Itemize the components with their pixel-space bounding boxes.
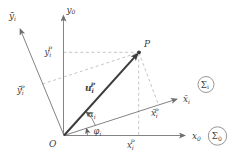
y-i-P-coordinate-label: yiP (44, 45, 53, 57)
ybar-i-axis (20, 30, 64, 136)
y0-axis-label: y0 (66, 5, 76, 16)
xbar-i-P-coordinate-label: x̄iP (151, 107, 159, 119)
xbar-i-axis-label: x̄i (183, 94, 190, 105)
x0-axis-label: x0 (192, 131, 201, 142)
alpha-i-angle-label: αi (88, 109, 96, 120)
point-P-label: P (143, 39, 151, 49)
ybar-i-P-coordinate-label: ȳiP (16, 84, 25, 96)
kinematics-figure: y0 ȳi x0 x̄i P O uiP yiP ȳiP x̄iP xiP … (0, 0, 244, 163)
point-P-dot (137, 50, 141, 54)
phi-angle-arc (87, 129, 88, 135)
origin-label: O (49, 139, 57, 149)
u-vector-label: uiP (85, 81, 95, 94)
phi-i-angle-label: φi (94, 126, 102, 137)
x-i-P-coordinate-label: xiP (127, 138, 135, 150)
vector-frames-diagram: y0 ȳi x0 x̄i P O uiP yiP ȳiP x̄iP xiP … (0, 0, 244, 163)
dashed-projection-to-xbar (139, 53, 159, 105)
ybar-i-axis-label: ȳi (8, 11, 16, 22)
